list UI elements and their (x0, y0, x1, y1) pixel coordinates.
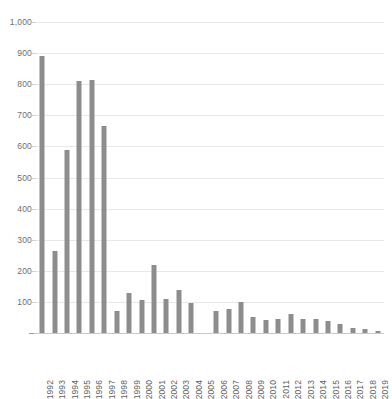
y-tick-label-700: 700 (2, 111, 32, 120)
x-tick-label-1994: 1994 (71, 380, 80, 399)
y-tick-label-900: 900 (2, 49, 32, 58)
x-tick-label-2011: 2011 (282, 380, 291, 399)
bar-slot (247, 22, 259, 333)
y-tick-label-500: 500 (2, 173, 32, 182)
bar-slot (36, 22, 48, 333)
x-tick-label-2008: 2008 (245, 380, 254, 399)
bar-slot (210, 22, 222, 333)
bar-1997[interactable] (102, 126, 107, 333)
bar-slot (73, 22, 85, 333)
x-tick-label-2003: 2003 (182, 380, 191, 399)
x-tick-label-1993: 1993 (58, 380, 67, 399)
bar-2003[interactable] (176, 290, 181, 333)
bar-slot (185, 22, 197, 333)
x-tick-label-1995: 1995 (83, 380, 92, 399)
bar-2008[interactable] (239, 302, 244, 333)
bar-slot (359, 22, 371, 333)
x-tick-label-1998: 1998 (120, 380, 129, 399)
x-tick-label-2014: 2014 (319, 380, 328, 399)
x-tick-label-2000: 2000 (145, 380, 154, 399)
y-tick-label-100: 100 (2, 298, 32, 307)
bar-slot (123, 22, 135, 333)
y-tick-mark-900 (32, 53, 36, 54)
x-tick-label-2004: 2004 (195, 380, 204, 399)
bar-slot (86, 22, 98, 333)
bar-2007[interactable] (226, 309, 231, 333)
x-tick-label-2015: 2015 (332, 380, 341, 399)
bar-2000[interactable] (139, 300, 144, 333)
bar-slot (309, 22, 321, 333)
bar-slot (222, 22, 234, 333)
bar-slot (235, 22, 247, 333)
bar-slot (347, 22, 359, 333)
bar-slot (98, 22, 110, 333)
bar-1998[interactable] (114, 311, 119, 333)
bar-slot (111, 22, 123, 333)
x-tick-label-2010: 2010 (269, 380, 278, 399)
bar-2011[interactable] (276, 319, 281, 333)
bar-slot (48, 22, 60, 333)
bar-slot (372, 22, 384, 333)
bar-2004[interactable] (189, 303, 194, 333)
bar-1999[interactable] (127, 293, 132, 333)
y-tick-mark-500 (32, 178, 36, 179)
bar-1993[interactable] (52, 251, 57, 333)
y-tick-label-200: 200 (2, 267, 32, 276)
y-tick-mark-200 (32, 271, 36, 272)
x-tick-label-2009: 2009 (257, 380, 266, 399)
bar-2009[interactable] (251, 317, 256, 333)
x-tick-label-2001: 2001 (158, 380, 167, 399)
x-tick-label-2017: 2017 (356, 380, 365, 399)
bar-slot (322, 22, 334, 333)
y-tick-label-1000: 1,000 (2, 18, 32, 27)
bar-1996[interactable] (89, 80, 94, 333)
bar-1994[interactable] (65, 150, 70, 333)
x-tick-label-2018: 2018 (369, 380, 378, 399)
x-tick-label-2006: 2006 (220, 380, 229, 399)
bar-slot (285, 22, 297, 333)
x-tick-label-2012: 2012 (294, 380, 303, 399)
y-tick-mark-300 (32, 240, 36, 241)
x-tick-label-2019: 2019 (381, 380, 390, 399)
y-tick-mark-800 (32, 84, 36, 85)
x-tick-label-2016: 2016 (344, 380, 353, 399)
y-tick-label-800: 800 (2, 80, 32, 89)
y-tick-mark-700 (32, 115, 36, 116)
x-tick-label-1999: 1999 (133, 380, 142, 399)
bar-slot (173, 22, 185, 333)
plot-area (36, 22, 384, 333)
bar-slot (297, 22, 309, 333)
x-tick-label-1997: 1997 (108, 380, 117, 399)
bar-2014[interactable] (313, 319, 318, 333)
x-tick-label-1996: 1996 (95, 380, 104, 399)
y-tick-mark-600 (32, 146, 36, 147)
y-tick-label-600: 600 (2, 142, 32, 151)
bar-2001[interactable] (152, 265, 157, 333)
bar-2012[interactable] (288, 314, 293, 333)
bar-slot (198, 22, 210, 333)
bar-2002[interactable] (164, 299, 169, 333)
y-tick-mark-100 (32, 302, 36, 303)
bar-1992[interactable] (40, 56, 45, 333)
x-tick-label-2007: 2007 (232, 380, 241, 399)
y-tick-mark-400 (32, 209, 36, 210)
bar-2010[interactable] (263, 320, 268, 333)
x-tick-label-2013: 2013 (307, 380, 316, 399)
bar-slot (160, 22, 172, 333)
bar-2013[interactable] (301, 319, 306, 333)
x-axis-line (30, 333, 384, 334)
bar-1995[interactable] (77, 81, 82, 333)
y-tick-label-300: 300 (2, 235, 32, 244)
bar-slot (135, 22, 147, 333)
bar-2006[interactable] (214, 311, 219, 333)
bar-2015[interactable] (326, 321, 331, 333)
y-axis: 1002003004005006007008009001,000 (0, 22, 32, 333)
x-tick-label-1992: 1992 (46, 380, 55, 399)
bar-2016[interactable] (338, 324, 343, 333)
bar-slot (334, 22, 346, 333)
bar-slot (148, 22, 160, 333)
y-tick-mark-1000 (32, 22, 36, 23)
x-axis-labels: 1992199319941995199619971998199920002001… (36, 336, 384, 383)
bars-layer (36, 22, 384, 333)
